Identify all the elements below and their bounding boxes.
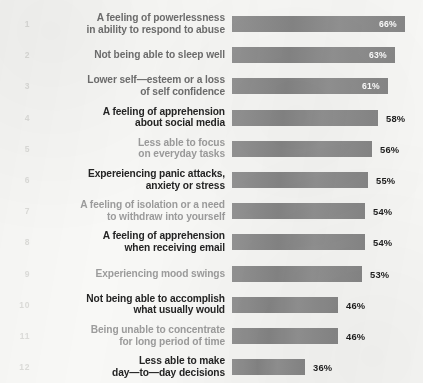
- bar-value-label: 55%: [376, 175, 395, 186]
- bar-track: 46%: [232, 328, 423, 344]
- row-rank-number: 10: [0, 300, 30, 310]
- row-category-label: A feeling of apprehension about social m…: [36, 106, 225, 129]
- bar: [232, 234, 365, 250]
- bar: [232, 328, 338, 344]
- row-category-label: Expereiencing panic attacks, anxiety or …: [36, 168, 225, 191]
- row-rank-number: 9: [0, 269, 30, 279]
- bar-value-label: 56%: [380, 143, 399, 154]
- bar-value-label: 46%: [346, 331, 365, 342]
- row-rank-number: 8: [0, 237, 30, 247]
- row-category-label: Lower self—esteem or a loss of self conf…: [36, 75, 225, 98]
- row-rank-number: 12: [0, 362, 30, 372]
- bar-track: 54%: [232, 234, 423, 250]
- row-rank-number: 2: [0, 50, 30, 60]
- bar-track: 53%: [232, 266, 423, 282]
- bar-track: 36%: [232, 359, 423, 375]
- row-category-label: Not being able to accomplish what usuall…: [36, 293, 225, 316]
- bar: [232, 266, 362, 282]
- bar-track: 54%: [232, 203, 423, 219]
- row-rank-number: 3: [0, 81, 30, 91]
- bar-track: 61%: [232, 78, 423, 94]
- bar-value-label: 58%: [386, 112, 405, 123]
- chart-row: 5Less able to focus on everyday tasks56%: [0, 133, 423, 165]
- bar-track: 55%: [232, 172, 423, 188]
- chart-row: 12Less able to make day—to—day decisions…: [0, 351, 423, 383]
- bar-value-label: 54%: [373, 237, 392, 248]
- bar: [232, 203, 365, 219]
- bar-value-label: 63%: [369, 50, 387, 60]
- bar-value-label: 61%: [362, 81, 380, 91]
- bar-value-label: 54%: [373, 206, 392, 217]
- row-rank-number: 5: [0, 144, 30, 154]
- bar: [232, 110, 378, 126]
- horizontal-bar-chart: 1A feeling of powerlessness in ability t…: [0, 0, 423, 383]
- chart-row: 11Being unable to concentrate for long p…: [0, 320, 423, 352]
- row-category-label: A feeling of isolation or a need to with…: [36, 200, 225, 223]
- bar: [232, 141, 372, 157]
- bar-track: 56%: [232, 141, 423, 157]
- bar-track: 66%: [232, 16, 423, 32]
- bar-track: 63%: [232, 47, 423, 63]
- row-category-label: A feeling of powerlessness in ability to…: [36, 12, 225, 35]
- bar: [232, 359, 305, 375]
- bar-value-label: 36%: [313, 362, 332, 373]
- chart-row: 2Not being able to sleep well63%: [0, 39, 423, 71]
- bar: [232, 297, 338, 313]
- row-rank-number: 7: [0, 206, 30, 216]
- row-category-label: Experiencing mood swings: [36, 268, 225, 280]
- bar-value-label: 46%: [346, 299, 365, 310]
- chart-row: 8A feeling of apprehension when receivin…: [0, 226, 423, 258]
- row-rank-number: 11: [0, 331, 30, 341]
- chart-row: 4A feeling of apprehension about social …: [0, 102, 423, 134]
- row-rank-number: 1: [0, 19, 30, 29]
- bar: [232, 172, 368, 188]
- bar-track: 46%: [232, 297, 423, 313]
- bar-track: 58%: [232, 110, 423, 126]
- row-rank-number: 6: [0, 175, 30, 185]
- chart-row: 6Expereiencing panic attacks, anxiety or…: [0, 164, 423, 196]
- row-category-label: Less able to focus on everyday tasks: [36, 137, 225, 160]
- row-category-label: Being unable to concentrate for long per…: [36, 324, 225, 347]
- chart-row: 1A feeling of powerlessness in ability t…: [0, 8, 423, 40]
- bar-value-label: 53%: [370, 268, 389, 279]
- row-category-label: A feeling of apprehension when receiving…: [36, 231, 225, 254]
- chart-row: 9Experiencing mood swings53%: [0, 258, 423, 290]
- row-rank-number: 4: [0, 113, 30, 123]
- chart-row: 10Not being able to accomplish what usua…: [0, 289, 423, 321]
- chart-row: 3Lower self—esteem or a loss of self con…: [0, 70, 423, 102]
- chart-row: 7A feeling of isolation or a need to wit…: [0, 195, 423, 227]
- row-category-label: Less able to make day—to—day decisions: [36, 356, 225, 379]
- bar-value-label: 66%: [379, 19, 397, 29]
- row-category-label: Not being able to sleep well: [36, 49, 225, 61]
